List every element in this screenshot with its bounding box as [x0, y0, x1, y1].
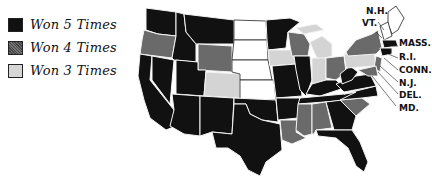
state-colorado — [204, 72, 240, 98]
state-north-dakota — [234, 20, 267, 40]
state-new-york — [346, 30, 382, 56]
state-kansas — [240, 80, 276, 100]
state-mississippi — [296, 104, 312, 136]
callout-label-ri: R.I. — [399, 52, 416, 62]
callout-label-del: DEL. — [399, 90, 422, 100]
state-south-dakota — [232, 40, 268, 60]
callout-label-nj: N.J. — [399, 78, 417, 88]
callout-label-vt: VT. — [362, 18, 377, 28]
state-wisconsin — [288, 32, 310, 56]
state-new-mexico — [200, 96, 234, 136]
callout-label-nh: N.H. — [366, 6, 388, 16]
state-florida — [316, 130, 368, 172]
callout-label-mass: MASS. — [399, 38, 431, 48]
state-massachusetts — [382, 40, 398, 48]
callout-label-md: MD. — [399, 103, 419, 113]
callout-label-conn: CONN. — [399, 65, 432, 75]
state-wyoming — [198, 44, 232, 72]
state-arkansas — [276, 98, 300, 120]
state-arizona — [170, 94, 200, 136]
